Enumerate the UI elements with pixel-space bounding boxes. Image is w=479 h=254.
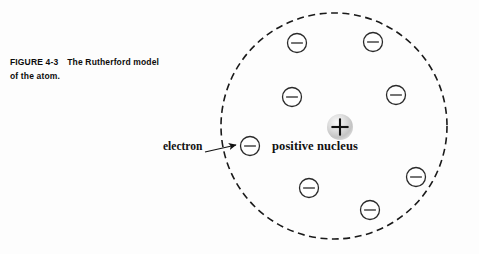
electron-symbol: [361, 201, 380, 220]
positive-nucleus-label: positive nucleus: [272, 139, 358, 154]
electron-symbol: [300, 179, 319, 198]
electron-label: electron: [163, 140, 202, 152]
nucleus: [327, 114, 353, 140]
electron-symbol: [387, 86, 406, 105]
electron-pointer-arrow: [205, 145, 236, 152]
electron-symbol: [407, 168, 426, 187]
figure-page: FIGURE 4-3The Rutherford model of the at…: [0, 0, 479, 254]
electron-symbol: [241, 137, 260, 156]
electron-symbol: [288, 34, 307, 53]
atom-diagram: [0, 0, 479, 254]
electron-symbol: [283, 88, 302, 107]
electron-symbol: [364, 33, 383, 52]
